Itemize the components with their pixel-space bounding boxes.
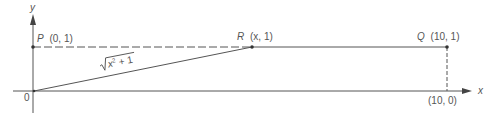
- point-p: [31, 45, 35, 49]
- label-p-name: P: [37, 33, 44, 44]
- y-axis-label: y: [29, 2, 36, 13]
- point-q: [445, 45, 449, 49]
- y-axis-arrow-icon: [30, 14, 36, 25]
- segment-or: [34, 47, 252, 91]
- label-q-foot: (10, 0): [428, 95, 457, 106]
- label-q-name: Q: [417, 31, 425, 42]
- x-axis-label: x: [477, 85, 484, 96]
- point-origin: [33, 90, 36, 93]
- origin-label: 0: [24, 92, 30, 103]
- label-p-coords: (0, 1): [49, 33, 72, 44]
- label-r-name: R: [237, 31, 244, 42]
- sqrt-rest: + 1: [115, 54, 134, 68]
- label-r: R (x, 1): [237, 31, 273, 42]
- label-q-coords: (10, 1): [431, 31, 460, 42]
- x-axis-arrow-icon: [462, 88, 472, 94]
- label-r-coords: (x, 1): [250, 31, 273, 42]
- point-r: [250, 45, 254, 49]
- segment-length-label: x2 + 1: [99, 52, 137, 71]
- label-p: P (0, 1): [37, 33, 73, 44]
- diagram-canvas: x y 0 P (0, 1) R (x, 1) Q (10, 1) (10, 0…: [0, 0, 487, 116]
- sqrt-radicand: x2 + 1: [106, 54, 134, 70]
- label-q: Q (10, 1): [417, 31, 459, 42]
